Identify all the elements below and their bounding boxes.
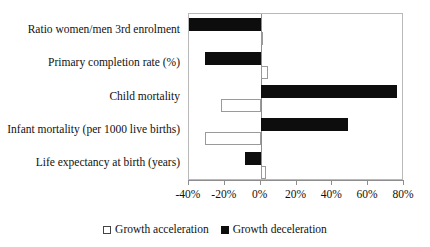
x-tick-mark <box>188 180 189 185</box>
x-tick-mark <box>224 180 225 185</box>
open-square-icon <box>103 226 111 234</box>
x-tick-mark <box>296 180 297 185</box>
bar-accel-1 <box>261 66 268 79</box>
legend-label: Growth deceleration <box>233 223 327 235</box>
bar-decel-0 <box>189 18 261 31</box>
legend-item[interactable]: Growth acceleration <box>103 222 209 236</box>
bar-accel-4 <box>261 166 266 179</box>
filled-square-icon <box>221 226 229 234</box>
bar-decel-2 <box>261 85 397 98</box>
category-label: Ratio women/men 3rd enrolment <box>0 23 180 35</box>
x-tick-mark <box>403 180 404 185</box>
bar-decel-1 <box>205 52 261 65</box>
x-tick-mark <box>331 180 332 185</box>
category-label: Child mortality <box>0 90 180 102</box>
x-tick-mark <box>260 180 261 185</box>
bar-accel-0 <box>261 32 263 45</box>
legend-item[interactable]: Growth deceleration <box>221 222 327 236</box>
category-label: Life expectancy at birth (years) <box>0 156 180 168</box>
bar-decel-3 <box>261 118 349 131</box>
bar-decel-4 <box>245 152 261 165</box>
x-tick-label-row: -40%-20%0%20%40%60%80% <box>168 187 423 203</box>
x-axis <box>188 180 403 186</box>
grouped-bar-chart: Ratio women/men 3rd enrolmentPrimary com… <box>0 0 430 247</box>
category-label: Infant mortality (per 1000 live births) <box>0 123 180 135</box>
bar-accel-2 <box>221 99 260 112</box>
x-tick-label: 80% <box>381 187 425 201</box>
category-axis: Ratio women/men 3rd enrolmentPrimary com… <box>0 12 184 180</box>
plot-area <box>188 13 403 180</box>
x-tick-mark <box>367 180 368 185</box>
chart-legend: Growth accelerationGrowth deceleration <box>0 222 430 236</box>
category-label: Primary completion rate (%) <box>0 56 180 68</box>
bar-accel-3 <box>205 132 261 145</box>
legend-label: Growth acceleration <box>115 223 209 235</box>
